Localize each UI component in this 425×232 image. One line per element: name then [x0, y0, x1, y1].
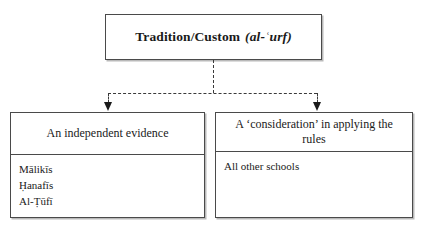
diagram-canvas: Tradition/Custom(al-ʿurf) An independent… [0, 0, 425, 232]
branch-right-entry-list: All other schools [216, 152, 412, 217]
branch-node-independent-evidence: An independent evidence Mālikīs Ḥanafīs … [10, 112, 205, 218]
arrowhead-right-icon [313, 102, 321, 111]
branch-left-heading: An independent evidence [11, 113, 204, 155]
branch-right-heading: A ‘consideration’ in applying the rules [216, 113, 412, 152]
connector-stem-vertical [213, 60, 214, 93]
list-item: Al-Ṭūfī [19, 194, 204, 210]
list-item: Mālikīs [19, 162, 204, 178]
root-node-label-roman: Tradition/Custom [135, 29, 240, 44]
root-node-label: Tradition/Custom(al-ʿurf) [135, 29, 292, 45]
root-node-tradition-custom: Tradition/Custom(al-ʿurf) [105, 14, 322, 60]
branch-node-consideration: A ‘consideration’ in applying the rules … [215, 112, 413, 218]
root-node-label-transliteration: (al-ʿurf) [245, 29, 292, 44]
connector-horizontal-bar [108, 93, 317, 94]
branch-left-entry-list: Mālikīs Ḥanafīs Al-Ṭūfī [11, 155, 204, 217]
list-item: Ḥanafīs [19, 178, 204, 194]
arrowhead-left-icon [104, 102, 112, 111]
list-item: All other schools [224, 159, 412, 175]
